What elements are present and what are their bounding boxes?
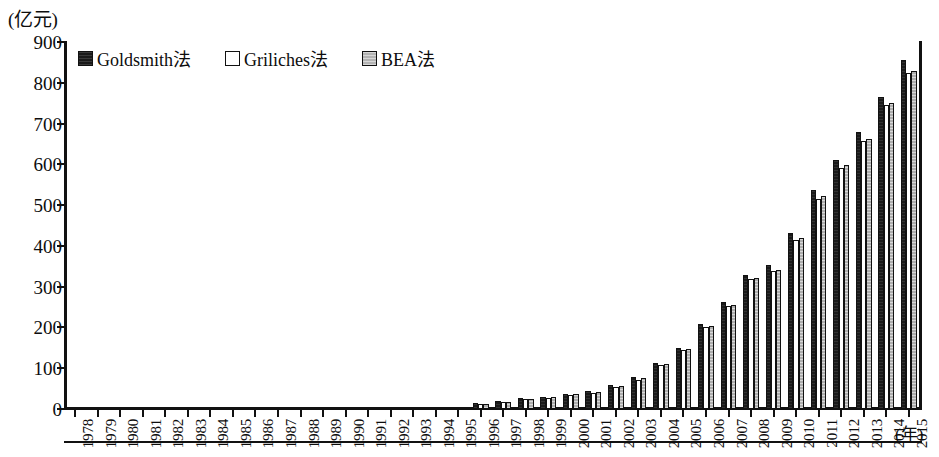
x-tick-label: 1997: [509, 419, 524, 448]
bar-bea: [371, 407, 376, 409]
bar-group: [473, 42, 489, 409]
y-tick-label: 500: [8, 196, 62, 215]
x-tick-mark: [435, 410, 437, 417]
bar-bea: [416, 407, 421, 409]
x-tick-label: 1993: [419, 419, 434, 448]
bar-bea: [506, 402, 511, 409]
x-tick-mark: [367, 410, 369, 417]
bar-bea: [573, 394, 578, 409]
bar-group: [540, 42, 556, 409]
bar-group: [495, 42, 511, 409]
x-tick-label: 1980: [126, 419, 141, 448]
x-tick-label: 1991: [374, 419, 389, 448]
bar-bea: [641, 378, 646, 409]
bar-bea: [551, 397, 556, 409]
bar-bea: [258, 407, 263, 409]
bar-group: [225, 42, 241, 409]
x-tick-mark: [187, 410, 189, 417]
x-tick-label: 1998: [532, 419, 547, 448]
bar-chart: (亿元) 0100200300400500600700800900 197819…: [0, 0, 939, 457]
bar-group: [518, 42, 534, 409]
x-tick-label: 2005: [689, 419, 704, 448]
y-axis-ticks: 0100200300400500600700800900: [0, 0, 62, 457]
bar-group: [608, 42, 624, 409]
chart-legend: Goldsmith法Griliches法BEA法: [78, 45, 435, 71]
y-tick-label: 800: [8, 73, 62, 92]
bar-group: [743, 42, 759, 409]
bar-bea: [326, 407, 331, 409]
bar-group: [135, 42, 151, 409]
x-tick-mark: [322, 410, 324, 417]
bar-group: [563, 42, 579, 409]
x-tick-mark: [142, 410, 144, 417]
x-tick-label: 2004: [667, 419, 682, 448]
bar-group: [157, 42, 173, 409]
bar-group: [811, 42, 827, 409]
x-tick-label: 1990: [352, 419, 367, 448]
x-tick-mark: [750, 410, 752, 417]
x-tick-mark: [885, 410, 887, 417]
bar-group: [360, 42, 376, 409]
legend-swatch-bea-icon: [362, 51, 377, 66]
x-tick-mark: [254, 410, 256, 417]
x-tick-mark: [74, 410, 76, 417]
x-tick-label: 1987: [284, 419, 299, 448]
x-tick-label: 1984: [216, 419, 231, 448]
x-tick-mark: [570, 410, 572, 417]
bar-group: [293, 42, 309, 409]
x-tick-mark: [412, 410, 414, 417]
y-tick-label: 700: [8, 114, 62, 133]
bar-group: [788, 42, 804, 409]
legend-label: Griliches法: [244, 45, 328, 71]
x-tick-mark: [728, 410, 730, 417]
x-tick-mark: [863, 410, 865, 417]
x-tick-mark: [592, 410, 594, 417]
bar-group: [698, 42, 714, 409]
legend-item-bea: BEA法: [362, 45, 435, 71]
bar-group: [338, 42, 354, 409]
bar-group: [766, 42, 782, 409]
x-tick-mark: [119, 410, 121, 417]
bar-bea: [844, 165, 849, 409]
legend-item-goldsmith: Goldsmith法: [78, 45, 191, 71]
bar-group: [315, 42, 331, 409]
legend-swatch-goldsmith-icon: [78, 51, 93, 66]
x-tick-mark: [795, 410, 797, 417]
bar-group: [653, 42, 669, 409]
bar-group: [833, 42, 849, 409]
y-tick-label: 0: [8, 400, 62, 419]
bar-bea: [393, 407, 398, 409]
x-tick-mark: [637, 410, 639, 417]
legend-label: BEA法: [381, 45, 435, 71]
x-tick-label: 2011: [825, 419, 840, 448]
y-tick-label: 300: [8, 277, 62, 296]
bar-bea: [889, 103, 894, 409]
plot-area: [64, 42, 920, 409]
x-tick-mark: [480, 410, 482, 417]
x-tick-label: 1994: [442, 419, 457, 448]
x-tick-label: 1989: [329, 419, 344, 448]
x-tick-label: 1981: [149, 419, 164, 448]
x-tick-label: 2000: [577, 419, 592, 448]
x-tick-mark: [682, 410, 684, 417]
bar-bea: [664, 364, 669, 409]
x-tick-mark: [300, 410, 302, 417]
bar-bea: [709, 326, 714, 409]
x-tick-label: 2007: [735, 419, 750, 448]
bar-group: [203, 42, 219, 409]
bar-bea: [281, 407, 286, 409]
bar-group: [383, 42, 399, 409]
bar-bea: [799, 238, 804, 409]
y-tick-label: 100: [8, 359, 62, 378]
x-tick-label: 1978: [81, 419, 96, 448]
x-tick-mark: [705, 410, 707, 417]
x-tick-label: 2009: [780, 419, 795, 448]
x-tick-label: 1996: [487, 419, 502, 448]
bar-group: [856, 42, 872, 409]
bar-group: [428, 42, 444, 409]
bar-group: [112, 42, 128, 409]
x-tick-mark: [908, 410, 910, 417]
bar-group: [180, 42, 196, 409]
bar-group: [90, 42, 106, 409]
x-tick-mark: [773, 410, 775, 417]
